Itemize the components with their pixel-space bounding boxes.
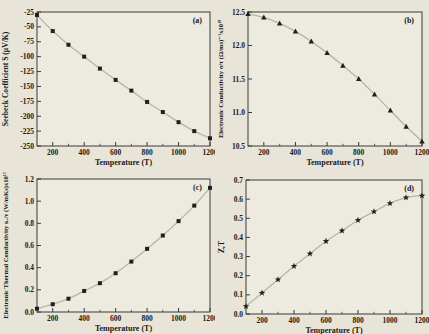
svg-text:1000: 1000 xyxy=(383,316,398,325)
chart-panel-c-electronic-thermal-conductivity: 200400600800100012000.00.20.40.60.81.01.… xyxy=(0,167,215,334)
svg-text:12.5: 12.5 xyxy=(232,8,245,17)
svg-text:800: 800 xyxy=(352,316,364,325)
x-axis-title-d: Temperature (T) xyxy=(305,326,362,334)
panel-letter-d: (d) xyxy=(404,184,414,193)
y-axis-title-c: Electronic Thermal Conductivity κₑ/τ (W/… xyxy=(2,172,10,319)
panel-letter-c: (c) xyxy=(193,183,202,192)
svg-text:0.2: 0.2 xyxy=(25,285,35,294)
svg-text:1.2: 1.2 xyxy=(25,175,35,184)
svg-text:0.4: 0.4 xyxy=(234,233,244,242)
svg-text:600: 600 xyxy=(110,148,122,157)
svg-text:-25: -25 xyxy=(24,8,34,17)
svg-text:10.5: 10.5 xyxy=(232,142,245,151)
svg-text:-225: -225 xyxy=(20,127,34,136)
svg-text:1200: 1200 xyxy=(203,314,216,323)
svg-text:200: 200 xyxy=(258,148,270,157)
svg-text:800: 800 xyxy=(353,148,365,157)
svg-text:0.5: 0.5 xyxy=(234,214,244,223)
panel-letter-b: (b) xyxy=(404,16,414,25)
svg-text:400: 400 xyxy=(288,316,300,325)
svg-text:600: 600 xyxy=(110,314,122,323)
svg-text:0.0: 0.0 xyxy=(25,308,35,317)
svg-text:1200: 1200 xyxy=(203,148,216,157)
svg-text:11.0: 11.0 xyxy=(232,108,245,117)
svg-text:-100: -100 xyxy=(20,52,34,61)
x-axis-title-a: Temperature (T) xyxy=(95,158,152,167)
svg-text:1200: 1200 xyxy=(415,148,429,157)
plot-frame-c xyxy=(37,179,210,312)
x-axis-title-b: Temperature (T) xyxy=(306,158,363,167)
svg-text:0.4: 0.4 xyxy=(25,263,35,272)
svg-text:-50: -50 xyxy=(24,22,34,31)
svg-text:0.0: 0.0 xyxy=(234,310,244,319)
svg-text:-75: -75 xyxy=(24,37,34,46)
svg-text:0.8: 0.8 xyxy=(25,219,35,228)
svg-text:200: 200 xyxy=(256,316,268,325)
panel-letter-a: (a) xyxy=(193,16,203,25)
svg-text:400: 400 xyxy=(79,314,91,323)
svg-text:1.0: 1.0 xyxy=(25,197,35,206)
y-axis-title-d: ZₑT xyxy=(217,241,226,253)
svg-text:-175: -175 xyxy=(20,97,34,106)
svg-text:0.6: 0.6 xyxy=(234,195,244,204)
four-panel-figure: 20040060080010001200-250-225-200-175-150… xyxy=(0,0,429,334)
chart-panel-b-electronic-conductivity: 2004006008001000120010.511.011.512.012.5… xyxy=(215,0,429,167)
svg-text:0.3: 0.3 xyxy=(234,252,244,261)
svg-text:1000: 1000 xyxy=(171,148,186,157)
svg-text:800: 800 xyxy=(141,314,153,323)
chart-panel-a-seebeck-coefficient: 20040060080010001200-250-225-200-175-150… xyxy=(0,0,215,167)
svg-text:0.1: 0.1 xyxy=(234,290,244,299)
svg-text:1200: 1200 xyxy=(415,316,429,325)
plot-frame-b xyxy=(248,12,422,146)
svg-text:600: 600 xyxy=(320,316,332,325)
svg-text:400: 400 xyxy=(79,148,91,157)
svg-text:11.5: 11.5 xyxy=(232,75,245,84)
svg-text:200: 200 xyxy=(47,148,59,157)
svg-text:0.2: 0.2 xyxy=(234,271,244,280)
svg-text:0.7: 0.7 xyxy=(234,176,244,185)
svg-text:-125: -125 xyxy=(20,67,34,76)
y-axis-title-a: Seebeck Coefficient S (μV/K) xyxy=(1,31,10,126)
x-axis-title-c: Temperature (T) xyxy=(95,324,152,333)
svg-text:600: 600 xyxy=(321,148,333,157)
svg-text:1000: 1000 xyxy=(171,314,186,323)
svg-text:800: 800 xyxy=(141,148,153,157)
svg-text:0.6: 0.6 xyxy=(25,241,35,250)
svg-text:-150: -150 xyxy=(20,82,34,91)
svg-text:1000: 1000 xyxy=(383,148,398,157)
y-axis-title-b: Electronic Conductivity σ/τ (Ω/ms)⁻¹x10¹… xyxy=(217,20,225,138)
plot-frame-d xyxy=(246,180,422,314)
svg-text:12.0: 12.0 xyxy=(232,41,245,50)
svg-text:200: 200 xyxy=(47,314,59,323)
svg-text:400: 400 xyxy=(290,148,302,157)
svg-text:-250: -250 xyxy=(20,142,34,151)
chart-panel-d-zet: 200400600800100012000.00.10.20.30.40.50.… xyxy=(215,167,429,334)
svg-text:-200: -200 xyxy=(20,112,34,121)
